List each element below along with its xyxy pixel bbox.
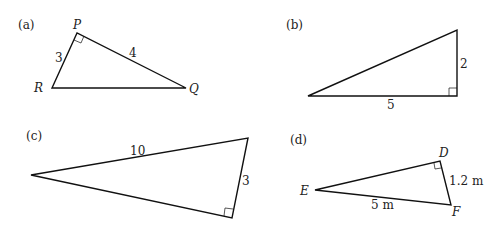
- side-df-length: 1.2 m: [449, 174, 484, 188]
- triangle-a: [52, 33, 186, 88]
- side-top-length-c: 10: [130, 144, 145, 158]
- figure-a-label: (a): [18, 18, 35, 32]
- triangle-b: [308, 30, 457, 96]
- right-angle-marker-c: [224, 208, 233, 216]
- figure-c-label: (c): [26, 129, 42, 143]
- right-angle-marker-b: [449, 88, 457, 96]
- side-vertical-length-b: 2: [460, 57, 468, 71]
- vertex-f-label: F: [451, 205, 461, 219]
- side-pq-length: 4: [129, 46, 137, 60]
- vertex-p-label: P: [72, 18, 82, 32]
- figure-d-label: (d): [290, 133, 307, 147]
- figure-b-label: (b): [286, 18, 303, 32]
- side-ef-length: 5 m: [371, 198, 394, 212]
- vertex-r-label: R: [33, 81, 43, 95]
- side-horizontal-length-b: 5: [387, 98, 395, 112]
- diagram-canvas: (a) P R Q 3 4 (b) 2 5 (c) 10 3 (d) D E F…: [0, 0, 497, 227]
- vertex-e-label: E: [299, 184, 309, 198]
- vertex-d-label: D: [438, 146, 449, 160]
- side-pr-length: 3: [55, 51, 63, 65]
- right-angle-marker-d: [434, 163, 441, 169]
- vertex-q-label: Q: [189, 82, 199, 96]
- side-right-length-c: 3: [242, 174, 250, 188]
- triangles-figure: (a) P R Q 3 4 (b) 2 5 (c) 10 3 (d) D E F…: [0, 0, 497, 227]
